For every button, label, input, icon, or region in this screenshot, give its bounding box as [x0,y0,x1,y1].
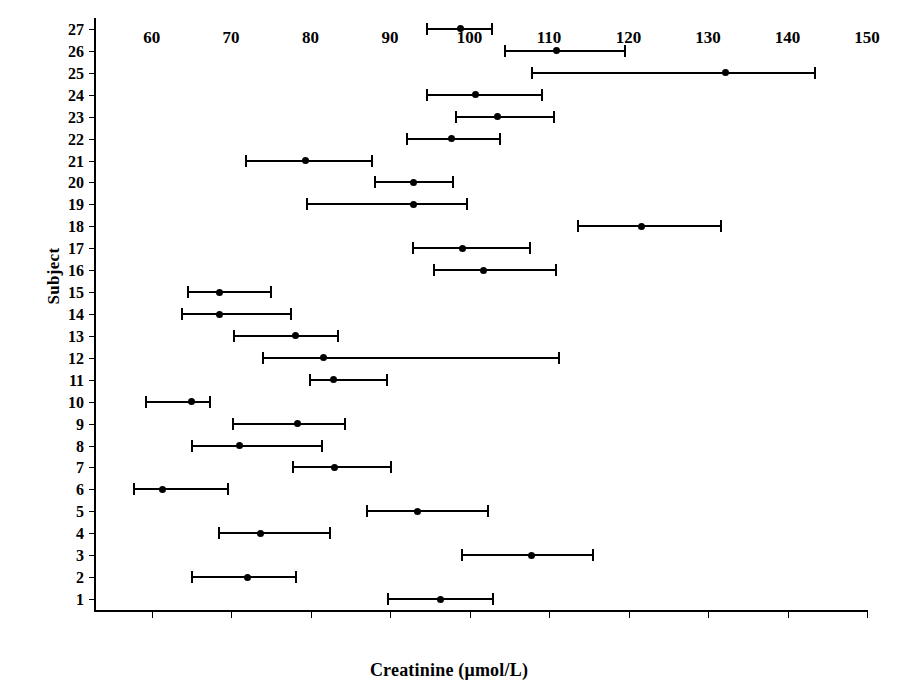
data-point-marker [553,47,560,54]
error-bar-upper-cap [337,330,339,342]
error-bar-lower-cap [412,242,414,254]
data-point-marker [457,25,464,32]
error-bar-lower-cap [232,418,234,430]
y-axis-tick: 14 [89,314,96,315]
y-axis-tick: 27 [89,29,96,30]
error-bar-lower-cap [133,483,135,495]
error-bar-lower-cap [426,89,428,101]
data-point-marker [188,398,195,405]
error-bar-line [218,532,331,534]
x-axis-tick [470,610,471,618]
error-bar-upper-cap [371,155,373,167]
x-axis-tick-label: 70 [223,28,240,48]
y-axis-title: Subject [44,216,64,336]
error-bar-lower-cap [181,308,183,320]
data-point-marker [448,135,455,142]
y-axis-tick-label: 5 [76,502,84,521]
y-axis-tick-label: 18 [68,217,84,236]
error-bar-line [433,269,557,271]
error-bar-line [531,72,816,74]
error-bar-lower-cap [191,440,193,452]
error-bar-line [262,357,560,359]
data-point-marker [528,552,535,559]
data-point-marker [236,442,243,449]
error-bar-upper-cap [386,374,388,386]
x-axis-tick-label: 130 [695,28,721,48]
x-axis-tick [152,610,153,618]
error-bar-line [426,94,543,96]
data-point-marker [216,311,223,318]
y-axis-tick-label: 6 [76,480,84,499]
error-bar-upper-cap [227,483,229,495]
y-axis-tick: 2 [89,577,96,578]
y-axis-tick-label: 21 [68,152,84,171]
y-axis-tick: 24 [89,95,96,96]
data-point-marker [244,574,251,581]
y-axis-tick: 10 [89,402,96,403]
error-bar-line [504,50,626,52]
y-axis-tick: 19 [89,204,96,205]
y-axis-tick: 11 [89,380,96,381]
y-axis-tick-label: 22 [68,130,84,149]
error-bar-lower-cap [426,23,428,35]
data-point-marker [302,157,309,164]
y-axis-tick-label: 7 [76,458,84,477]
data-point-marker [480,267,487,274]
y-axis-tick-label: 9 [76,415,84,434]
error-bar-upper-cap [499,133,501,145]
error-bar-lower-cap [306,198,308,210]
x-axis-tick [867,610,868,618]
error-bar-line [145,401,211,403]
data-point-marker [257,530,264,537]
error-bar-lower-cap [406,133,408,145]
y-axis-tick: 9 [89,424,96,425]
error-bar-upper-cap [295,571,297,583]
error-bar-upper-cap [814,67,816,79]
error-bar-line [292,466,392,468]
y-axis-tick: 16 [89,270,96,271]
y-axis-tick-label: 17 [68,239,84,258]
error-bar-lower-cap [187,286,189,298]
error-bar-upper-cap [592,549,594,561]
error-bar-upper-cap [270,286,272,298]
y-axis-tick-label: 11 [69,371,84,390]
error-bar-lower-cap [191,571,193,583]
y-axis-tick: 1 [89,599,96,600]
x-axis-tick-label: 60 [143,28,160,48]
y-axis-tick: 21 [89,161,96,162]
y-axis-tick: 25 [89,73,96,74]
y-axis-tick-label: 8 [76,437,84,456]
y-axis-tick: 6 [89,489,96,490]
error-bar-lower-cap [374,176,376,188]
y-axis-tick-label: 26 [68,42,84,61]
error-bar-lower-cap [504,45,506,57]
x-axis-tick-label: 140 [775,28,801,48]
y-axis-tick-label: 16 [68,261,84,280]
error-bar-line [577,225,722,227]
error-bar-upper-cap [209,396,211,408]
data-point-marker [410,179,417,186]
x-axis-tick [549,610,550,618]
data-point-marker [159,486,166,493]
y-axis-tick-label: 25 [68,64,84,83]
x-axis-tick [390,610,391,618]
data-point-marker [414,508,421,515]
error-bar-upper-cap [624,45,626,57]
error-bar-line [187,291,271,293]
y-axis-tick-label: 27 [68,20,84,39]
y-axis-tick-label: 2 [76,568,84,587]
error-bar-line [366,510,489,512]
y-axis-tick-label: 24 [68,86,84,105]
error-bar-upper-cap [329,527,331,539]
y-axis-tick: 8 [89,446,96,447]
y-axis-tick: 13 [89,336,96,337]
error-bar-lower-cap [245,155,247,167]
error-bar-upper-cap [529,242,531,254]
error-bar-upper-cap [344,418,346,430]
error-bar-line [232,423,346,425]
error-bar-lower-cap [218,527,220,539]
data-point-marker [437,596,444,603]
data-point-marker [216,289,223,296]
error-bar-upper-cap [541,89,543,101]
error-bar-lower-cap [262,352,264,364]
